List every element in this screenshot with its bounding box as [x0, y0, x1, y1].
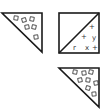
triangle-bottom-right: [59, 68, 99, 107]
square-marks: [73, 70, 99, 97]
square-top-right: + + y r x +: [59, 13, 99, 53]
diagram-canvas: + + y r x +: [0, 0, 109, 110]
mark-plus: +: [81, 33, 87, 41]
triangle-top-left: [2, 13, 42, 52]
mark-plus: +: [92, 44, 98, 52]
mark-x: x: [85, 44, 89, 52]
mark-plus: +: [89, 23, 95, 31]
mark-r: r: [73, 44, 76, 52]
mark-y: y: [92, 34, 96, 42]
